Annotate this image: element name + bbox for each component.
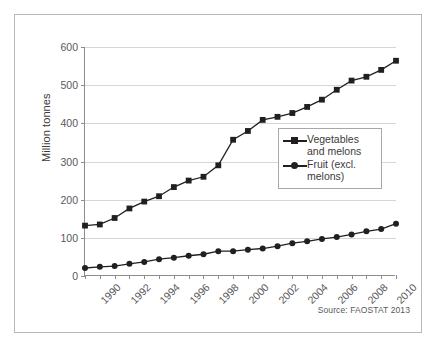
data-point-square [260, 117, 266, 123]
circle-marker-icon [283, 160, 307, 172]
legend-item-fruit-excl-melons[interactable]: Fruit (excl. melons) [283, 159, 381, 182]
data-point-circle [200, 251, 206, 257]
data-point-square [393, 58, 399, 64]
square-marker-icon [283, 135, 307, 147]
data-point-square [319, 97, 325, 103]
series-fruit-excl-melons [82, 221, 399, 271]
y-tick-label: 0 [72, 270, 78, 282]
data-point-circle [393, 221, 399, 227]
data-point-circle [82, 265, 88, 271]
data-point-circle [245, 247, 251, 253]
data-point-square [215, 162, 221, 168]
data-point-square [82, 223, 88, 229]
data-point-square [127, 206, 133, 212]
data-point-circle [289, 240, 295, 246]
data-point-circle [126, 261, 132, 267]
data-point-circle [156, 256, 162, 262]
data-point-square [334, 87, 340, 93]
y-axis-title: Million tonnes [40, 93, 52, 162]
data-point-square [186, 178, 192, 184]
series-line [85, 224, 396, 268]
legend-item-label: Vegetables and melons [307, 134, 361, 157]
y-tick-label: 100 [60, 232, 78, 244]
data-point-square [141, 199, 147, 205]
data-point-circle [186, 253, 192, 259]
data-point-circle [363, 228, 369, 234]
data-point-circle [334, 234, 340, 240]
data-point-square [349, 78, 355, 84]
data-point-circle [230, 248, 236, 254]
chart-figure: Million tonnes 0100200300400500600 19901… [0, 0, 436, 350]
data-point-circle [215, 248, 221, 254]
data-point-square [363, 74, 369, 80]
y-tick-label: 300 [60, 156, 78, 168]
data-point-square [378, 67, 384, 73]
y-tick-label: 400 [60, 117, 78, 129]
data-point-circle [171, 255, 177, 261]
data-point-circle [275, 243, 281, 249]
data-point-circle [349, 231, 355, 237]
data-point-circle [304, 238, 310, 244]
data-point-square [156, 193, 162, 199]
y-tick-label: 600 [60, 41, 78, 53]
data-point-square [289, 110, 295, 116]
source-note: Source: FAOSTAT 2013 [318, 305, 410, 315]
data-point-circle [378, 226, 384, 232]
legend-item-vegetables-and-melons[interactable]: Vegetables and melons [283, 134, 381, 157]
data-point-square [245, 128, 251, 134]
data-point-circle [97, 264, 103, 270]
data-point-square [304, 104, 310, 110]
data-point-circle [141, 259, 147, 265]
data-point-circle [319, 236, 325, 242]
legend: Vegetables and melons Fruit (excl. melon… [278, 128, 382, 189]
x-tick-mark [396, 275, 397, 279]
data-point-square [171, 184, 177, 190]
y-tick-label: 500 [60, 79, 78, 91]
data-point-square [97, 222, 103, 228]
data-point-square [275, 114, 281, 120]
data-point-square [112, 215, 118, 221]
legend-item-label: Fruit (excl. melons) [307, 159, 356, 182]
data-point-circle [260, 246, 266, 252]
data-point-circle [112, 263, 118, 269]
data-point-square [230, 137, 236, 143]
data-point-square [201, 174, 207, 180]
y-tick-label: 200 [60, 194, 78, 206]
